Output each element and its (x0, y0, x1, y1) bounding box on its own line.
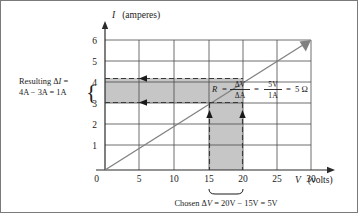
bottom-annotation-brace (209, 189, 243, 194)
formula-equals-3: = (286, 84, 291, 94)
formula-frac2-numerator: 5V (268, 80, 278, 89)
formula-frac1-num-unit: V (240, 80, 246, 89)
data-line-iv (105, 45, 303, 170)
vertical-shaded-band (209, 103, 243, 170)
formula-result: 5 Ω (295, 84, 308, 94)
svg-text:I (amperes): I (amperes) (111, 4, 160, 21)
bottom-annotation-text: Chosen ΔV = 20V − 15V = 5V (174, 199, 277, 208)
formula-frac2-denominator: 1A (268, 91, 278, 100)
x-axis-arrowhead (327, 167, 335, 173)
left-annot-suffix: = (61, 77, 68, 86)
x-axis-title: V (volts) (295, 169, 333, 186)
left-annotation-line2: 4A − 3A = 1A (19, 88, 67, 97)
bottom-annot-prefix: Chosen (174, 199, 201, 208)
left-annotation-brace: { (86, 79, 97, 104)
bottom-annotation: Chosen ΔV = 20V − 15V = 5V (174, 189, 277, 208)
x-tick-label-20: 20 (238, 174, 248, 184)
y-tick-label-5: 5 (92, 57, 97, 67)
formula-frac1-denominator: ΔA (235, 91, 246, 100)
x-tick-label-10: 10 (169, 174, 179, 184)
bottom-annot-equation: = 20V − 15V = 5V (212, 199, 278, 208)
y-tick-label-1: 1 (92, 141, 97, 151)
x-tick-label-15: 15 (204, 174, 214, 184)
y-tick-label-0: 0 (94, 174, 99, 184)
formula-equals-1: = (222, 84, 227, 94)
y-tick-label-6: 6 (92, 36, 97, 46)
svg-text:V (volts): V (volts) (295, 169, 333, 186)
formula-equals-2: = (254, 84, 259, 94)
y-tick-labels: 6 5 4 3 2 1 0 (92, 36, 99, 185)
y-axis-unit: (amperes) (122, 10, 160, 21)
x-tick-label-5: 5 (137, 174, 142, 184)
formula-frac1-numerator: ΔV (235, 80, 246, 89)
x-axis-symbol: V (295, 175, 302, 185)
y-axis-title: I (amperes) (111, 4, 160, 21)
left-annot-prefix: Resulting (19, 77, 53, 86)
iv-graph: 6 5 4 3 2 1 0 5 10 15 20 25 30 I (ampere… (0, 0, 359, 214)
x-axis-unit: (volts) (308, 175, 333, 186)
formula-frac1-den-unit: A (240, 91, 246, 100)
figure-container: 6 5 4 3 2 1 0 5 10 15 20 25 30 I (ampere… (0, 0, 359, 214)
x-tick-labels: 5 10 15 20 25 30 (137, 174, 316, 184)
y-axis-arrowhead (102, 21, 108, 29)
x-tick-label-25: 25 (272, 174, 282, 184)
y-axis-symbol: I (111, 10, 116, 20)
y-tick-label-2: 2 (92, 120, 97, 130)
left-annotation: Resulting ΔI = 4A − 3A = 1A { (19, 77, 97, 104)
formula-variable: R (211, 84, 218, 94)
left-annotation-line1: Resulting ΔI = (19, 77, 68, 86)
